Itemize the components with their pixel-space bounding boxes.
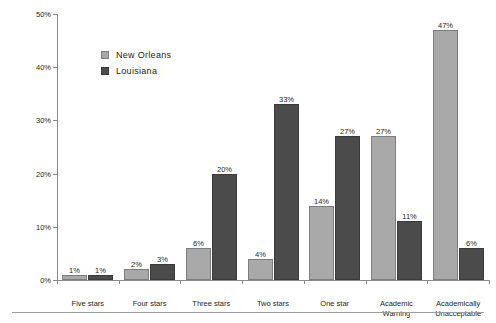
x-axis-line bbox=[57, 280, 489, 281]
bar-group: 14%27% bbox=[309, 14, 360, 280]
x-axis-category-label: Five stars bbox=[57, 299, 119, 309]
x-axis-category-label: Four stars bbox=[119, 299, 181, 309]
legend-swatch-icon-new-orleans bbox=[101, 51, 109, 59]
x-axis-category-label: Three stars bbox=[180, 299, 242, 309]
legend-item-new-orleans: New Orleans bbox=[101, 47, 171, 63]
bar-value-label: 11% bbox=[402, 212, 416, 221]
y-axis-tick-label: 30% bbox=[36, 116, 51, 125]
bar: 20% bbox=[212, 174, 237, 280]
bar: 3% bbox=[150, 264, 175, 280]
bar: 1% bbox=[62, 275, 87, 280]
x-axis-tick bbox=[57, 280, 58, 284]
footer-divider bbox=[12, 312, 484, 313]
bar: 27% bbox=[371, 136, 396, 280]
x-axis-tick bbox=[366, 280, 367, 284]
bar-value-label: 27% bbox=[376, 127, 391, 136]
bar-value-label: 14% bbox=[314, 197, 329, 206]
bar: 6% bbox=[459, 248, 484, 280]
bar: 6% bbox=[186, 248, 211, 280]
x-axis-tick bbox=[242, 280, 243, 284]
bar-group: 47%6% bbox=[433, 14, 484, 280]
x-axis-category-label: Two stars bbox=[242, 299, 304, 309]
y-axis-tick-label: 10% bbox=[36, 222, 51, 231]
bar-value-label: 1% bbox=[95, 266, 106, 275]
bar-value-label: 3% bbox=[157, 255, 168, 264]
x-axis-tick bbox=[427, 280, 428, 284]
y-axis-tick-label: 20% bbox=[36, 169, 51, 178]
x-axis-category-label: One star bbox=[304, 299, 366, 309]
bar-group: 4%33% bbox=[248, 14, 299, 280]
y-axis-tick bbox=[53, 67, 57, 68]
chart-legend: New Orleans Louisiana bbox=[101, 47, 171, 79]
x-axis-tick bbox=[180, 280, 181, 284]
bar: 11% bbox=[397, 221, 422, 280]
y-axis-tick bbox=[53, 14, 57, 15]
bar: 1% bbox=[88, 275, 113, 280]
bar-value-label: 1% bbox=[69, 266, 80, 275]
y-axis-tick bbox=[53, 227, 57, 228]
legend-label-new-orleans: New Orleans bbox=[116, 50, 171, 60]
bar-value-label: 4% bbox=[255, 250, 266, 259]
bar-value-label: 2% bbox=[131, 260, 142, 269]
bar: 33% bbox=[274, 104, 299, 280]
bar-value-label: 27% bbox=[340, 127, 355, 136]
legend-item-louisiana: Louisiana bbox=[101, 63, 171, 79]
bar: 2% bbox=[124, 269, 149, 280]
legend-label-louisiana: Louisiana bbox=[116, 66, 157, 76]
bar-value-label: 47% bbox=[438, 21, 453, 30]
legend-swatch-icon-louisiana bbox=[101, 67, 109, 75]
x-axis-category-label: Academic Warning bbox=[366, 299, 428, 318]
bar-value-label: 33% bbox=[279, 95, 294, 104]
bar: 27% bbox=[335, 136, 360, 280]
x-axis-category-label: Academically Unacceptable bbox=[427, 299, 489, 318]
y-axis-tick-label: 0% bbox=[40, 276, 51, 285]
x-axis-tick bbox=[304, 280, 305, 284]
bar: 47% bbox=[433, 30, 458, 280]
x-axis-tick bbox=[119, 280, 120, 284]
y-axis-tick bbox=[53, 120, 57, 121]
x-axis-tick bbox=[489, 280, 490, 284]
bar-value-label: 6% bbox=[193, 239, 204, 248]
bar-group: 27%11% bbox=[371, 14, 422, 280]
bar: 14% bbox=[309, 206, 334, 280]
bar-value-label: 6% bbox=[466, 239, 477, 248]
bar-group: 6%20% bbox=[186, 14, 237, 280]
bar-value-label: 20% bbox=[217, 165, 232, 174]
y-axis-line bbox=[57, 14, 58, 281]
bar-chart-figure: 0%10%20%30%40%50% 1%1%2%3%6%20%4%33%14%2… bbox=[0, 0, 496, 323]
y-axis-tick-label: 50% bbox=[36, 10, 51, 19]
y-axis-tick-label: 40% bbox=[36, 63, 51, 72]
bar: 4% bbox=[248, 259, 273, 280]
y-axis-tick bbox=[53, 174, 57, 175]
